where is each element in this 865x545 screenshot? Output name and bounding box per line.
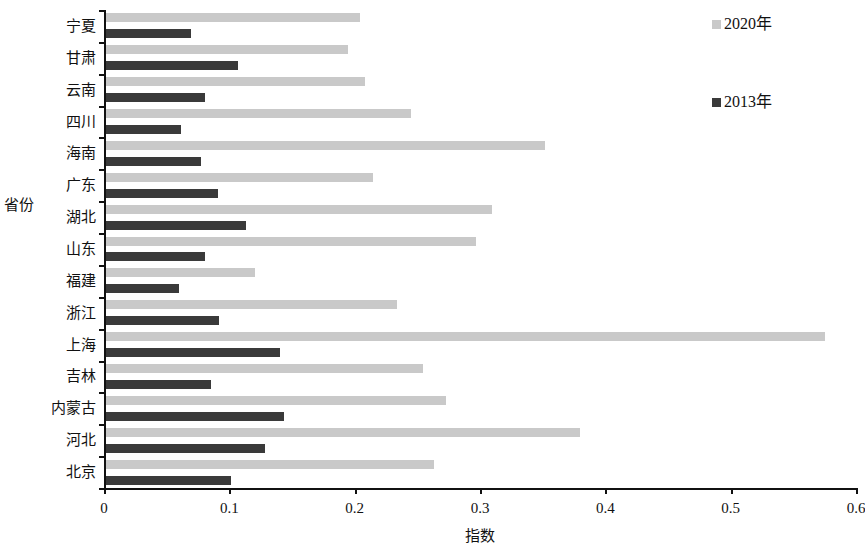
y-axis-tick [99,201,104,203]
bar-2013 [106,348,280,357]
legend-swatch-icon [712,98,721,107]
bar-2013 [106,93,205,102]
bar-2013 [106,444,265,453]
bar-2020 [106,460,434,469]
y-axis-tick [99,42,104,44]
legend-swatch-icon [712,20,721,29]
y-axis-tick [99,329,104,331]
legend-item: 2013年 [712,93,772,111]
x-axis-tick-label: 0.6 [847,499,865,517]
category-label-list: 宁夏甘肃云南四川海南广东湖北山东福建浙江上海吉林内蒙古河北北京 [36,10,100,488]
bar-2020 [106,109,411,118]
bar-2020 [106,13,360,22]
y-axis-tick [99,392,104,394]
y-axis-tick [99,361,104,363]
bar-2020 [106,332,825,341]
x-axis-tick [229,488,231,494]
x-axis-tick-label: 0.4 [596,499,615,517]
legend-item: 2020年 [712,15,772,33]
category-label: 宁夏 [66,16,96,36]
category-label: 广东 [66,175,96,195]
x-axis-tick [605,488,607,494]
bar-2020 [106,396,446,405]
y-axis-tick [99,297,104,299]
bar-2013 [106,284,179,293]
x-axis-tick [731,488,733,494]
bar-2020 [106,173,373,182]
bar-2020 [106,300,397,309]
y-axis-tick [99,424,104,426]
bar-2020 [106,45,348,54]
bar-2013 [106,476,231,485]
bar-2013 [106,157,201,166]
x-axis-tick-label: 0.2 [345,499,364,517]
category-label: 海南 [66,143,96,163]
y-axis-tick [99,233,104,235]
bar-2013 [106,29,191,38]
category-label: 四川 [66,112,96,132]
category-label: 河北 [66,430,96,450]
x-axis-tick [480,488,482,494]
bar-2020 [106,205,492,214]
x-axis-tick-label: 0.1 [220,499,239,517]
bar-2013 [106,252,205,261]
x-axis-title: 指数 [104,524,856,545]
x-axis-tick [856,488,858,494]
bar-2013 [106,380,211,389]
x-axis-tick [104,488,106,494]
category-label: 云南 [66,80,96,100]
bar-2020 [106,141,545,150]
bar-2020 [106,428,580,437]
bar-2013 [106,61,238,70]
y-axis-tick [99,169,104,171]
bar-2020 [106,237,476,246]
category-label: 湖北 [66,207,96,227]
bar-2020 [106,77,365,86]
y-axis-tick [99,74,104,76]
y-axis-title: 省份 [2,196,36,215]
bar-2013 [106,221,246,230]
category-label: 甘肃 [66,48,96,68]
category-label: 吉林 [66,366,96,386]
bar-2013 [106,125,181,134]
legend-label: 2020年 [724,15,772,33]
x-axis-tick [355,488,357,494]
y-axis-tick [99,10,104,12]
bar-2013 [106,189,218,198]
category-label: 北京 [66,462,96,482]
y-axis-tick [99,265,104,267]
category-label: 浙江 [66,303,96,323]
x-axis-tick-label: 0 [100,499,108,517]
bar-2020 [106,364,423,373]
category-label: 内蒙古 [51,398,96,418]
bar-2013 [106,412,284,421]
category-label: 上海 [66,335,96,355]
category-label: 山东 [66,239,96,259]
y-axis-tick [99,137,104,139]
legend: 2020年2013年 [712,10,857,110]
x-axis-tick-label: 0.3 [471,499,490,517]
x-axis-tick-label: 0.5 [721,499,740,517]
bar-2013 [106,316,219,325]
category-label: 福建 [66,271,96,291]
y-axis-tick [99,456,104,458]
y-axis-tick [99,106,104,108]
bar-2020 [106,268,255,277]
legend-label: 2013年 [724,93,772,111]
